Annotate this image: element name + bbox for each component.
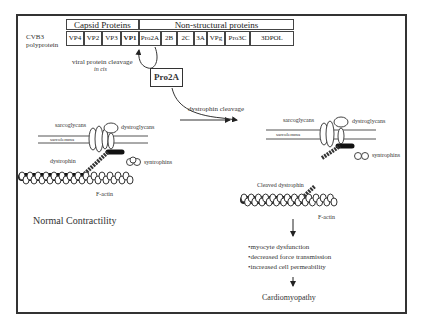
normal-factin-label: F-actin — [96, 191, 113, 197]
outcome-item: •myocyte dysfunction — [248, 243, 309, 251]
dystrophin-cleavage-curve — [172, 88, 222, 118]
cleaved-complex — [240, 117, 376, 204]
normal-syntrophins-label: syntrophins — [144, 159, 172, 165]
cis-cleavage-arrow — [139, 47, 157, 68]
normal-dystroglycans-label: dystroglycans — [121, 124, 154, 130]
cleaved-dystrophin-label: Cleaved dystrophin — [257, 182, 304, 188]
cleaved-syntrophins-label: syntrophins — [372, 152, 400, 158]
normal-actin-filament — [19, 172, 133, 184]
cleaved-dystroglycans-label: dystroglycans — [352, 118, 385, 124]
outcome-item: •increased cell permeability — [248, 263, 326, 271]
cleaved-sarcolemma-label: sarcolemma — [276, 132, 300, 137]
cleaved-sarcoglycans-label: sarcoglycans — [283, 117, 314, 123]
outcome-item: •decreased force transmission — [248, 253, 331, 261]
cardiomyopathy-label: Cardiomyopathy — [262, 293, 316, 302]
normal-contractility-title: Normal Contractility — [33, 215, 117, 226]
normal-sarcolemma-label: sarcolemma — [50, 137, 74, 142]
cleaved-actin-filament — [241, 194, 337, 206]
cleaved-factin-label: F-actin — [318, 214, 335, 220]
normal-dystrophin-label: dystrophin — [50, 158, 76, 164]
actin-bead — [127, 176, 133, 184]
actin-bead — [331, 198, 337, 206]
normal-sarcoglycans-label: sarcoglycans — [55, 122, 86, 128]
